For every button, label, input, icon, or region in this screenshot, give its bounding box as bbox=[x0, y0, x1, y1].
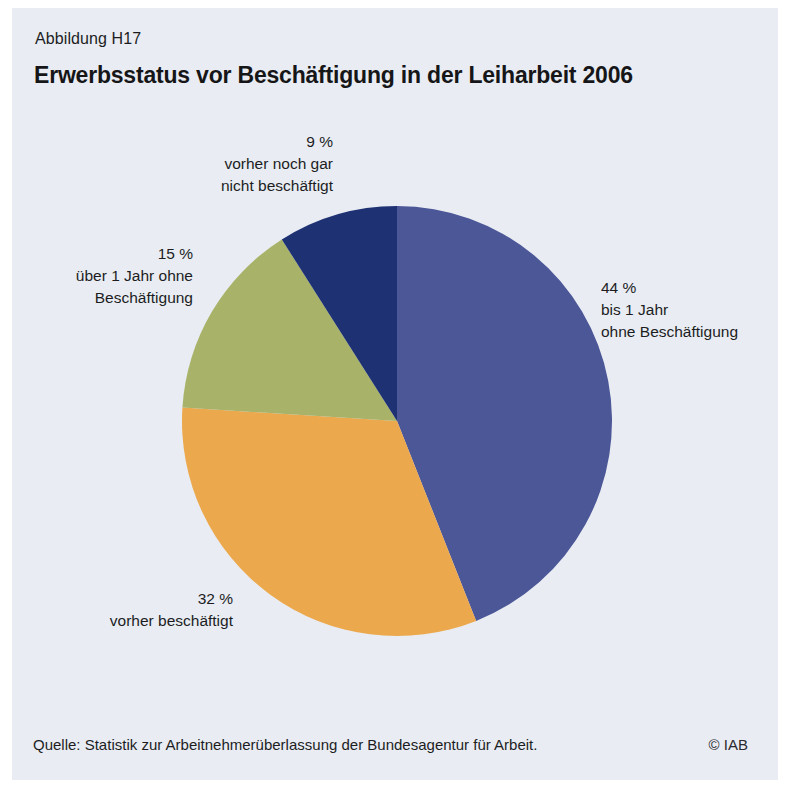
pie-chart bbox=[181, 205, 613, 637]
scanned-figure-page: Abbildung H17 Erwerbsstatus vor Beschäft… bbox=[0, 0, 790, 807]
slice-text-line: bis 1 Jahr bbox=[601, 299, 738, 321]
slice-text-line: vorher beschäftigt bbox=[110, 610, 233, 632]
slice-text-line: Beschäftigung bbox=[76, 287, 193, 309]
slice-value: 32 % bbox=[110, 588, 233, 610]
slice-label-44: 44 % bis 1 Jahr ohne Beschäftigung bbox=[601, 277, 738, 343]
figure-title: Erwerbsstatus vor Beschäftigung in der L… bbox=[34, 62, 633, 89]
slice-label-15: 15 % über 1 Jahr ohne Beschäftigung bbox=[76, 243, 193, 309]
slice-value: 9 % bbox=[221, 131, 333, 153]
slice-value: 15 % bbox=[76, 243, 193, 265]
slice-text-line: ohne Beschäftigung bbox=[601, 321, 738, 343]
slice-value: 44 % bbox=[601, 277, 738, 299]
slice-text-line: nicht beschäftigt bbox=[221, 175, 333, 197]
copyright-text: © IAB bbox=[709, 736, 748, 753]
slice-label-32: 32 % vorher beschäftigt bbox=[110, 588, 233, 632]
slice-text-line: vorher noch gar bbox=[221, 153, 333, 175]
slice-text-line: über 1 Jahr ohne bbox=[76, 265, 193, 287]
slice-label-9: 9 % vorher noch gar nicht beschäftigt bbox=[221, 131, 333, 197]
source-text: Quelle: Statistik zur Arbeitnehmerüberla… bbox=[33, 736, 537, 753]
figure-label: Abbildung H17 bbox=[35, 30, 141, 48]
